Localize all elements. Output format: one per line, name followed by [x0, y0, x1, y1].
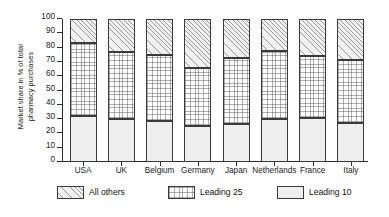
y-tick-label-10: 10 [46, 141, 55, 151]
x-axis-label-usa: USA [75, 166, 92, 176]
bar-japan [223, 19, 250, 162]
legend-swatch-all-others [57, 186, 84, 199]
bar-germany [184, 19, 211, 162]
y-tick-label-70: 70 [46, 55, 55, 65]
x-axis-label-italy: Italy [343, 166, 358, 176]
bar-segment-belgium-leading-25 [146, 55, 173, 121]
y-tick-label-20: 20 [46, 126, 55, 136]
y-tick-90: 90 [57, 32, 62, 33]
legend-swatch-leading-25 [168, 186, 195, 199]
bar-segment-belgium-leading-10 [146, 121, 173, 162]
legend-item-leading-25[interactable]: Leading 25 [168, 186, 243, 199]
x-axis-label-germany: Germany [181, 166, 215, 176]
y-tick-label-30: 30 [46, 112, 55, 122]
bar-segment-uk-all-others [108, 19, 135, 52]
bar-segment-italy-all-others [337, 19, 364, 60]
y-axis-line [62, 19, 63, 162]
y-tick-label-60: 60 [46, 69, 55, 79]
bar-segment-japan-all-others [223, 19, 250, 58]
y-tick-0: 0 [57, 161, 62, 162]
bar-usa [70, 19, 97, 162]
stacked-bar-chart: Market share in % of total pharmacy purc… [0, 0, 389, 217]
bar-segment-italy-leading-25 [337, 60, 364, 122]
chart-legend: All othersLeading 25Leading 10 [0, 186, 389, 214]
legend-item-all-others[interactable]: All others [57, 186, 125, 199]
y-tick-20: 20 [57, 132, 62, 133]
y-tick-10: 10 [57, 147, 62, 148]
bar-segment-usa-leading-25 [70, 43, 97, 116]
bar-segment-netherlands-leading-25 [261, 51, 288, 119]
y-tick-100: 100 [57, 18, 62, 19]
bar-segment-germany-all-others [184, 19, 211, 68]
bar-netherlands [261, 19, 288, 162]
legend-item-leading-10[interactable]: Leading 10 [277, 186, 352, 199]
bar-belgium [146, 19, 173, 162]
y-axis-title-line-1: Market share in % of total [16, 12, 26, 162]
y-tick-label-100: 100 [41, 12, 55, 22]
y-tick-label-80: 80 [46, 41, 55, 51]
y-tick-70: 70 [57, 61, 62, 62]
legend-label-leading-25: Leading 25 [200, 187, 243, 198]
y-axis-title-line-2: pharmacy purchases [26, 12, 36, 162]
y-tick-30: 30 [57, 118, 62, 119]
bar-segment-japan-leading-25 [223, 58, 250, 124]
x-axis-label-uk: UK [116, 166, 127, 176]
bar-segment-germany-leading-10 [184, 126, 211, 162]
y-tick-80: 80 [57, 47, 62, 48]
plot-area: 0102030405060708090100 [62, 19, 368, 162]
y-tick-label-40: 40 [46, 98, 55, 108]
bar-italy [337, 19, 364, 162]
y-axis-title: Market share in % of total pharmacy purc… [16, 12, 35, 162]
bar-segment-france-leading-10 [299, 118, 326, 162]
bar-uk [108, 19, 135, 162]
bar-segment-france-all-others [299, 19, 326, 56]
bar-segment-italy-leading-10 [337, 123, 364, 162]
x-axis-label-belgium: Belgium [145, 166, 175, 176]
bar-segment-usa-leading-10 [70, 116, 97, 162]
x-axis-label-japan: Japan [225, 166, 247, 176]
x-axis-label-netherlands: Netherlands [252, 166, 296, 176]
legend-label-leading-10: Leading 10 [309, 187, 352, 198]
bar-segment-netherlands-all-others [261, 19, 288, 51]
y-tick-40: 40 [57, 104, 62, 105]
bar-segment-usa-all-others [70, 19, 97, 43]
y-tick-50: 50 [57, 90, 62, 91]
y-tick-60: 60 [57, 75, 62, 76]
y-tick-label-0: 0 [50, 155, 55, 165]
bar-segment-france-leading-25 [299, 56, 326, 118]
y-tick-label-50: 50 [46, 84, 55, 94]
legend-label-all-others: All others [89, 187, 125, 198]
bar-segment-uk-leading-25 [108, 52, 135, 119]
bar-segment-uk-leading-10 [108, 119, 135, 162]
bar-segment-netherlands-leading-10 [261, 119, 288, 162]
legend-swatch-leading-10 [277, 186, 304, 199]
y-tick-label-90: 90 [46, 26, 55, 36]
bar-segment-germany-leading-25 [184, 68, 211, 126]
bar-segment-japan-leading-10 [223, 124, 250, 162]
bar-segment-belgium-all-others [146, 19, 173, 55]
bar-france [299, 19, 326, 162]
x-axis-label-france: France [300, 166, 325, 176]
